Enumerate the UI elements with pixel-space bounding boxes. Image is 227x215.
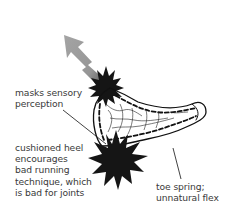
- foot-bones: [106, 104, 188, 134]
- annotation-heel: cushioned heel encourages bad running te…: [15, 142, 92, 198]
- annotation-toe-spring: toe spring; unnatural flex: [156, 181, 219, 203]
- annotation-sensory: masks sensory perception: [15, 87, 82, 109]
